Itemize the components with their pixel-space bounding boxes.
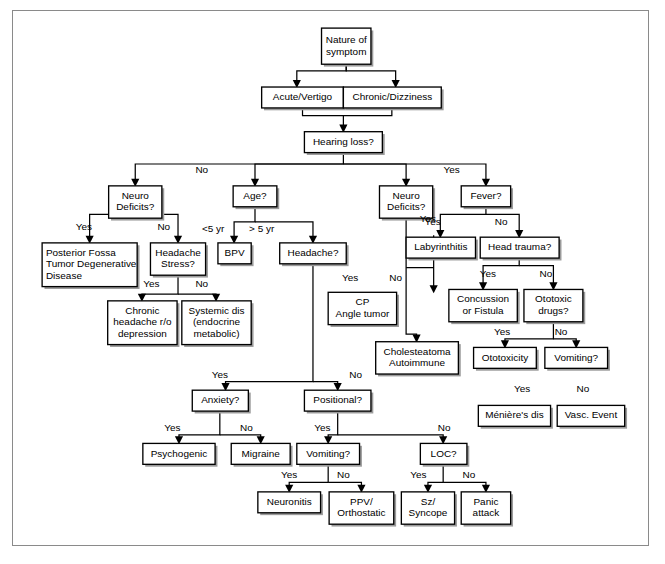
node-label: PPV/ (350, 496, 373, 507)
node-headtrauma[interactable]: Head trauma? (480, 237, 561, 260)
node-cholesteatoma[interactable]: CholesteatomaAutoimmune (376, 342, 461, 377)
node-label: BPV (225, 247, 245, 258)
node-label: Hearing loss? (313, 136, 374, 147)
connector-line (178, 294, 216, 295)
node-neuro_left[interactable]: NeuroDeficits? (109, 186, 165, 221)
node-label: headache r/o (113, 316, 172, 327)
node-ototoxic_q[interactable]: Ototoxicdrugs? (524, 289, 585, 324)
connector-line (443, 482, 486, 486)
node-label: Autoimmune (389, 357, 445, 368)
node-labyrinth[interactable]: Labyrinthitis (406, 237, 478, 260)
edge-label: Yes (143, 278, 159, 289)
node-label: Panic (473, 496, 498, 507)
node-label: Disease (46, 270, 82, 281)
node-bpv[interactable]: BPV (218, 243, 254, 266)
connector-line (343, 164, 486, 180)
edge-label: Yes (281, 469, 297, 480)
node-chronic[interactable]: Chronic/Dizziness (343, 87, 443, 110)
node-label: symptom (326, 46, 366, 57)
node-vomiting_c[interactable]: Vomiting? (297, 443, 362, 466)
node-concussion[interactable]: Concussionor Fistula (449, 289, 520, 324)
flowchart-canvas: Nature ofsymptomAcute/VertigoChronic/Diz… (13, 11, 650, 547)
node-headache_str[interactable]: HeadacheStress? (150, 243, 207, 278)
node-label: Chronic (125, 305, 159, 316)
node-anxiety[interactable]: Anxiety? (192, 390, 250, 413)
node-label: CP (355, 296, 369, 307)
edge-label: Yes (410, 469, 426, 480)
node-label: Vomiting? (306, 448, 350, 459)
connector-line (328, 482, 361, 486)
node-meniere[interactable]: Ménière's dis (478, 405, 553, 428)
node-label: Acute/Vertigo (273, 91, 333, 102)
node-label: (endocrine (193, 316, 241, 327)
edge-label: No (195, 278, 208, 289)
node-neuronitis[interactable]: Neuronitis (258, 492, 323, 515)
node-label: or Fistula (463, 305, 504, 316)
edge-label: No (555, 326, 568, 337)
edge-label: Yes (514, 383, 530, 394)
edge-label: No (495, 216, 508, 227)
connector-line (440, 207, 486, 232)
node-sz[interactable]: Sz/Syncope (401, 492, 457, 527)
edge-label: No (349, 369, 362, 380)
arrowhead-icon (430, 285, 438, 293)
node-label: Posterior Fossa (46, 247, 116, 258)
node-loc[interactable]: LOC? (420, 443, 469, 466)
node-ototoxicity[interactable]: Ototoxicity (474, 347, 539, 370)
connector-line (303, 108, 344, 126)
connector-line (220, 435, 261, 438)
connector-line (297, 64, 346, 81)
node-acute[interactable]: Acute/Vertigo (262, 87, 346, 110)
node-label: Migraine (242, 448, 281, 459)
node-systemic[interactable]: Systemic dis(endocrinemetabolic) (182, 301, 254, 347)
node-nature[interactable]: Nature ofsymptom (322, 28, 374, 66)
node-vomiting_r[interactable]: Vomiting? (545, 347, 610, 370)
node-headache_q[interactable]: Headache? (280, 243, 349, 266)
connector-line (338, 435, 443, 438)
node-label: Systemic dis (189, 305, 245, 316)
edge-label: Yes (212, 369, 228, 380)
connector-line (505, 322, 553, 342)
node-label: Neuro (393, 190, 421, 201)
edge-label: No (240, 422, 253, 433)
node-panic[interactable]: Panicattack (461, 492, 513, 527)
edge-label: No (157, 221, 170, 232)
node-ppv[interactable]: PPV/Orthostatic (329, 492, 396, 527)
diagram-frame: Nature ofsymptomAcute/VertigoChronic/Diz… (12, 10, 649, 546)
edge-label: Yes (494, 326, 510, 337)
connector-line (406, 218, 416, 336)
node-label: Neuronitis (267, 496, 312, 507)
edge-label: No (539, 268, 552, 279)
node-label: drugs? (538, 305, 569, 316)
node-psychogenic[interactable]: Psychogenic (143, 443, 218, 466)
node-cp_angle[interactable]: CPAngle tumor (328, 292, 399, 327)
node-label: Stress? (161, 258, 195, 269)
node-hearing[interactable]: Hearing loss? (304, 132, 384, 155)
node-label: Headache? (287, 247, 338, 258)
node-label: Syncope (409, 507, 448, 518)
node-vascevent[interactable]: Vasc. Event (557, 405, 627, 428)
edge-label: Yes (444, 164, 460, 175)
node-posterior[interactable]: Posterior FossaTumor DegenerativeDisease (42, 243, 139, 289)
connector-line (343, 164, 406, 180)
node-label: Anxiety? (201, 394, 240, 405)
edge-label: > 5 yr (249, 223, 275, 234)
node-migraine[interactable]: Migraine (231, 443, 292, 466)
node-label: attack (473, 507, 500, 518)
edge-label: No (576, 383, 589, 394)
node-age[interactable]: Age? (233, 186, 279, 209)
connector-line (255, 164, 343, 180)
node-fever[interactable]: Fever? (461, 186, 513, 209)
connector-line (179, 411, 220, 438)
edge-label: No (462, 469, 475, 480)
node-label: Concussion (457, 293, 509, 304)
edge-label: <5 yr (202, 223, 225, 234)
node-chronic_hd[interactable]: Chronicheadache r/odepression (108, 301, 180, 347)
edge-label: Yes (342, 272, 358, 283)
node-label: Vasc. Event (565, 409, 618, 420)
node-positional[interactable]: Positional? (304, 390, 373, 413)
node-label: Deficits? (387, 201, 426, 212)
node-label: Ototoxicity (482, 352, 529, 363)
node-label: Ototoxic (535, 293, 572, 304)
node-label: Tumor Degenerative (46, 258, 137, 269)
